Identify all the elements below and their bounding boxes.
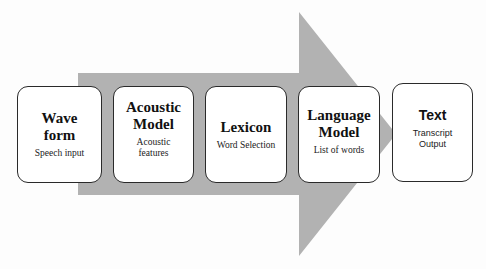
step-title: Language Model (307, 107, 370, 141)
step-text-output: Text Transcript Output (392, 83, 473, 182)
step-subtitle: Acoustic features (137, 137, 171, 159)
step-title: Acoustic Model (126, 99, 181, 133)
step-subtitle-line: Acoustic (137, 137, 171, 148)
step-title: Lexicon (221, 119, 272, 136)
step-title-line: Language (307, 107, 370, 124)
step-title-line: Text (419, 107, 447, 124)
step-title-line: form (42, 127, 78, 144)
step-title-line: Model (307, 124, 370, 141)
step-title-line: Lexicon (221, 119, 272, 136)
step-waveform: Wave form Speech input (17, 86, 102, 183)
step-subtitle-line: Output (413, 139, 453, 150)
step-subtitle: Transcript Output (413, 128, 453, 150)
step-title-line: Model (126, 116, 181, 133)
step-subtitle-line: Speech input (35, 148, 84, 159)
step-subtitle-line: List of words (314, 145, 365, 156)
step-title-line: Acoustic (126, 99, 181, 116)
step-subtitle: List of words (314, 145, 365, 156)
step-subtitle-line: features (137, 148, 171, 159)
step-subtitle-line: Transcript (413, 128, 453, 139)
step-acoustic-model: Acoustic Model Acoustic features (113, 86, 194, 183)
speech-recognition-pipeline-diagram: Wave form Speech input Acoustic Model Ac… (0, 0, 486, 269)
step-title: Wave form (42, 110, 78, 144)
step-title: Text (419, 107, 447, 124)
step-subtitle: Speech input (35, 148, 84, 159)
step-title-line: Wave (42, 110, 78, 127)
step-subtitle-line: Word Selection (217, 140, 276, 151)
step-subtitle: Word Selection (217, 140, 276, 151)
step-lexicon: Lexicon Word Selection (205, 86, 287, 183)
step-language-model: Language Model List of words (298, 86, 380, 183)
